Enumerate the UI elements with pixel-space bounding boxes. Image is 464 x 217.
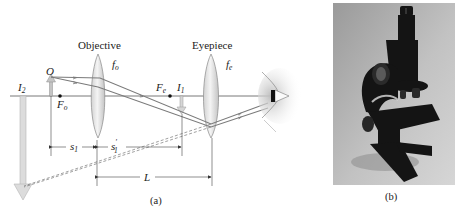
objective-label: Objective <box>78 39 121 51</box>
compound-microscope-figure: Objective Eyepiece fo fe O Fo Fe I1 I2 s… <box>0 0 464 217</box>
dimension-lines <box>51 96 212 186</box>
panel-a-ray-diagram: Objective Eyepiece fo fe O Fo Fe I1 I2 s… <box>10 39 302 207</box>
objective-lens <box>91 54 105 138</box>
distance-s1-prime-label: s′1 <box>111 138 118 155</box>
image-I2-label: I2 <box>17 81 26 95</box>
focal-point-Fo-label: Fo <box>56 98 68 112</box>
object-label: O <box>46 65 54 77</box>
panel-a-caption: (a) <box>150 195 162 207</box>
image-I1-label: I1 <box>176 81 184 95</box>
focal-point-Fe <box>168 94 172 98</box>
focal-length-fo-label: fo <box>112 58 119 72</box>
virtual-ray-extensions <box>24 124 211 187</box>
focal-point-Fe-label: Fe <box>155 81 167 95</box>
tube-length-L-label: L <box>143 171 150 183</box>
panel-b-microscope-photo: (b) <box>333 3 455 203</box>
panel-b-caption: (b) <box>385 191 398 203</box>
eye-illustration <box>258 68 302 132</box>
focal-length-fe-label: fe <box>226 58 233 72</box>
distance-s1-label: s1 <box>70 140 78 154</box>
eyepiece-label: Eyepiece <box>192 39 232 51</box>
